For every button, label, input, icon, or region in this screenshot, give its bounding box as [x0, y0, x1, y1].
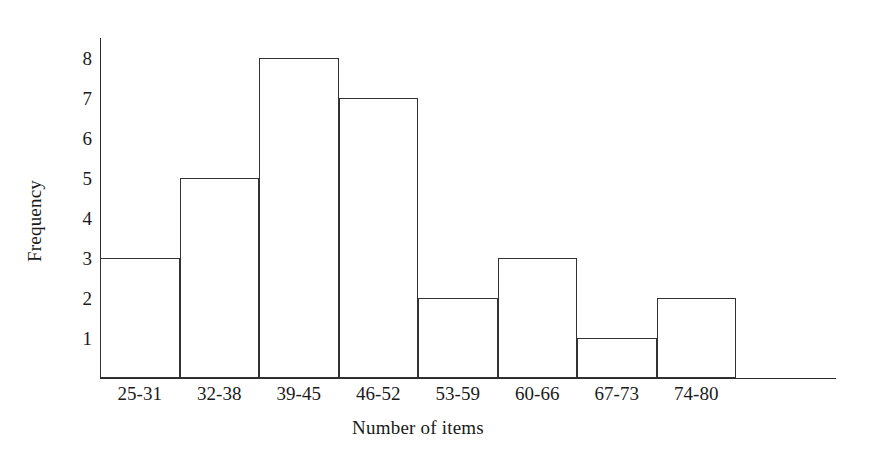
x-tick-label: 39-45	[259, 384, 339, 403]
y-tick-label: 2	[70, 289, 92, 308]
y-tick-label: 5	[70, 169, 92, 188]
y-tick-label: 3	[70, 249, 92, 268]
x-axis-title: Number of items	[100, 417, 736, 439]
bar-74-80	[657, 298, 737, 378]
y-axis-tick-labels: 87654321	[62, 0, 92, 463]
y-tick-label: 6	[70, 129, 92, 148]
x-tick-label: 67-73	[577, 384, 657, 403]
bar-60-66	[498, 258, 578, 378]
x-tick-label: 60-66	[498, 384, 578, 403]
x-tick-label: 74-80	[657, 384, 737, 403]
histogram-figure: Frequency 87654321 25-3132-3839-4546-525…	[0, 0, 888, 463]
bar-32-38	[180, 178, 260, 378]
x-axis-tick-labels: 25-3132-3839-4546-5253-5960-6667-7374-80	[100, 384, 836, 410]
x-tick-label: 46-52	[339, 384, 419, 403]
y-tick-label: 4	[70, 209, 92, 228]
bar-series	[100, 38, 736, 379]
x-tick-label: 25-31	[100, 384, 180, 403]
bar-39-45	[259, 58, 339, 378]
y-tick-label: 8	[70, 49, 92, 68]
x-tick-label: 32-38	[180, 384, 260, 403]
bar-53-59	[418, 298, 498, 378]
y-axis-title: Frequency	[24, 71, 50, 371]
bar-25-31	[100, 258, 180, 378]
x-tick-label: 53-59	[418, 384, 498, 403]
y-tick-label: 7	[70, 89, 92, 108]
y-tick-label: 1	[70, 329, 92, 348]
bar-46-52	[339, 98, 419, 378]
bar-67-73	[577, 338, 657, 378]
plot-area	[100, 38, 836, 379]
